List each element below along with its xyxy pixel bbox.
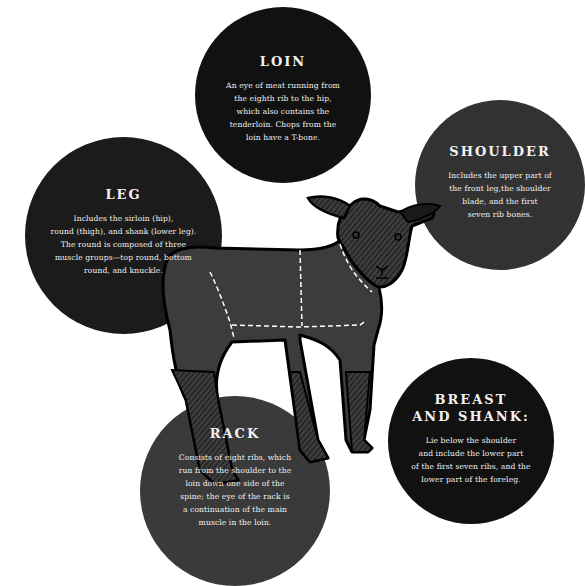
shoulder-description: Includes the upper part of the front leg… xyxy=(448,169,552,221)
loin-label: LOIN An eye of meat running from the eig… xyxy=(195,7,371,183)
rack-description: Consists of eight ribs, which run from t… xyxy=(179,451,292,529)
cut-lines xyxy=(210,244,372,338)
loin-description: An eye of meat running from the eighth r… xyxy=(226,79,340,144)
rack-label: RACK Consists of eight ribs, which run f… xyxy=(140,396,330,586)
loin-title: LOIN xyxy=(226,53,340,70)
shoulder-label: SHOULDER Includes the upper part of the … xyxy=(415,100,585,270)
leg-label: LEG Includes the sirloin (hip), round (t… xyxy=(25,137,222,334)
breast-and-shank-description: Lie below the shoulder and include the l… xyxy=(411,434,530,486)
leg-description: Includes the sirloin (hip), round (thigh… xyxy=(51,212,197,277)
lamb-left-ear xyxy=(308,196,350,218)
leg-title: LEG xyxy=(51,186,197,203)
rack-title: RACK xyxy=(179,425,292,442)
breast-and-shank-label: BREAST AND SHANK: Lie below the shoulder… xyxy=(388,358,554,524)
shoulder-title: SHOULDER xyxy=(448,143,552,160)
breast-and-shank-title: BREAST AND SHANK: xyxy=(411,391,530,425)
